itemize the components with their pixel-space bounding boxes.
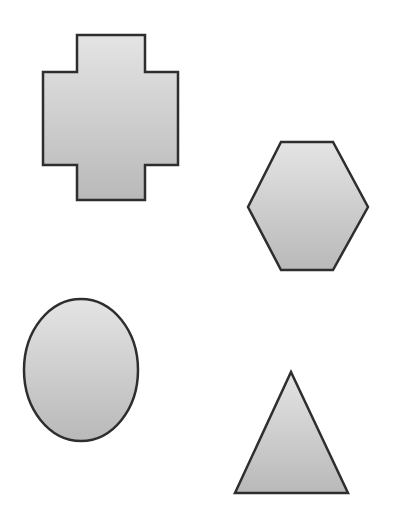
ellipse-shape	[24, 299, 138, 441]
shapes-diagram	[0, 0, 396, 530]
